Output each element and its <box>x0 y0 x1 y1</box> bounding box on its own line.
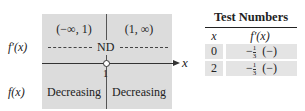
table-header: x f′(x) <box>205 28 297 44</box>
open-circle-icon <box>103 60 110 67</box>
behavior-left: Decreasing <box>42 85 106 100</box>
cell-x: 2 <box>205 61 223 76</box>
function-row-label: f(x) <box>8 85 25 100</box>
test-numbers-table: Test Numbers x f′(x) 0 −13(−) 2 −13(−) <box>205 10 297 78</box>
negative-sign: − <box>246 61 253 75</box>
behavior-right: Decreasing <box>107 85 171 100</box>
axis-label: x <box>182 55 188 71</box>
interval-left: (−∞, 1) <box>42 22 106 37</box>
table-row: 0 −13(−) <box>205 44 297 59</box>
denominator: 3 <box>253 70 257 77</box>
cell-x: 0 <box>205 44 223 59</box>
sign-indicator: (−) <box>262 44 277 58</box>
cell-value: −13(−) <box>226 61 297 76</box>
dashed-line-right <box>120 47 168 49</box>
interval-right: (1, ∞) <box>107 22 171 37</box>
table-row: 2 −13(−) <box>205 61 297 76</box>
denominator: 3 <box>253 53 257 60</box>
fraction: 13 <box>253 62 257 77</box>
header-fprime: f′(x) <box>223 29 297 44</box>
negative-sign: − <box>246 44 253 58</box>
fraction: 13 <box>253 45 257 60</box>
header-x: x <box>205 29 223 44</box>
critical-point-label: 1 <box>103 68 108 79</box>
cell-value: −13(−) <box>226 44 297 59</box>
not-defined-marker: ND <box>96 40 115 55</box>
derivative-row-label: f′(x) <box>8 40 27 55</box>
dashed-line-left <box>48 47 92 49</box>
sign-indicator: (−) <box>262 61 277 75</box>
table-title: Test Numbers <box>205 10 297 28</box>
axis-arrow-icon <box>173 60 180 66</box>
